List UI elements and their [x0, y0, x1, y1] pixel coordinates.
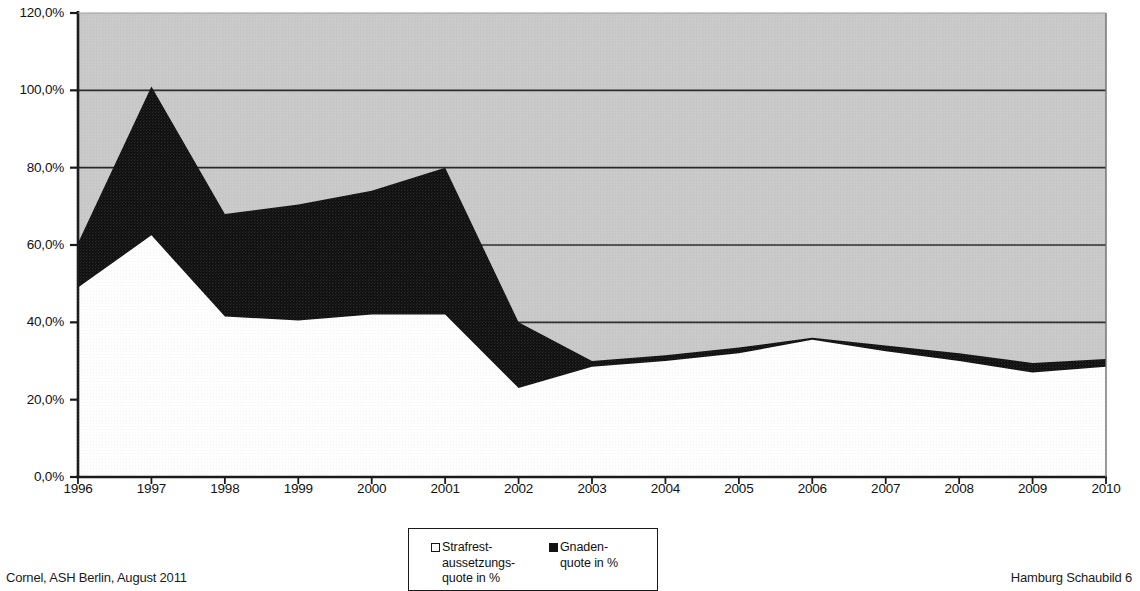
y-tick-label-60: 60,0% [2, 238, 64, 252]
legend-label-gnaden: Gnaden- quote in % [560, 540, 618, 571]
x-tick-label-2003: 2003 [562, 481, 622, 496]
footer-figure-label: Hamburg Schaubild 6 [1011, 570, 1132, 585]
y-tick-label-20: 20,0% [2, 393, 64, 407]
footer-source-note: Cornel, ASH Berlin, August 2011 [6, 570, 187, 585]
y-axis-labels: 0,0%20,0%40,0%60,0%80,0%100,0%120,0% [0, 0, 64, 512]
x-tick-label-2007: 2007 [856, 481, 916, 496]
chart-page: 0,0%20,0%40,0%60,0%80,0%100,0%120,0% 199… [0, 0, 1140, 591]
x-tick-label-2009: 2009 [1003, 481, 1063, 496]
x-tick-label-2004: 2004 [635, 481, 695, 496]
x-tick-label-2006: 2006 [782, 481, 842, 496]
y-tick-label-100: 100,0% [2, 83, 64, 97]
legend-item-gnaden: Gnaden- quote in % [549, 540, 618, 571]
x-tick-label-1996: 1996 [48, 481, 108, 496]
x-tick-label-2010: 2010 [1076, 481, 1136, 496]
legend-item-strafrest: Strafrest- aussetzungs- quote in % [431, 540, 515, 587]
y-tick-label-40: 40,0% [2, 315, 64, 329]
x-tick-label-2008: 2008 [929, 481, 989, 496]
x-tick-label-1998: 1998 [195, 481, 255, 496]
x-tick-label-2001: 2001 [415, 481, 475, 496]
x-tick-label-1999: 1999 [268, 481, 328, 496]
stacked-area-chart [0, 0, 1140, 512]
chart-legend: Strafrest- aussetzungs- quote in % Gnade… [408, 528, 658, 591]
legend-swatch-filled-icon [549, 543, 558, 552]
x-tick-label-1997: 1997 [121, 481, 181, 496]
chart-area: 0,0%20,0%40,0%60,0%80,0%100,0%120,0% 199… [0, 0, 1140, 512]
x-axis-labels: 1996199719981999200020012002200320042005… [0, 481, 1140, 505]
x-tick-label-2000: 2000 [342, 481, 402, 496]
scan-grain-overlay [78, 13, 1106, 477]
y-tick-label-120: 120,0% [2, 6, 64, 20]
y-tick-label-80: 80,0% [2, 161, 64, 175]
x-tick-label-2005: 2005 [709, 481, 769, 496]
legend-swatch-hollow-icon [431, 543, 440, 552]
x-tick-label-2002: 2002 [489, 481, 549, 496]
legend-label-strafrest: Strafrest- aussetzungs- quote in % [442, 540, 515, 587]
